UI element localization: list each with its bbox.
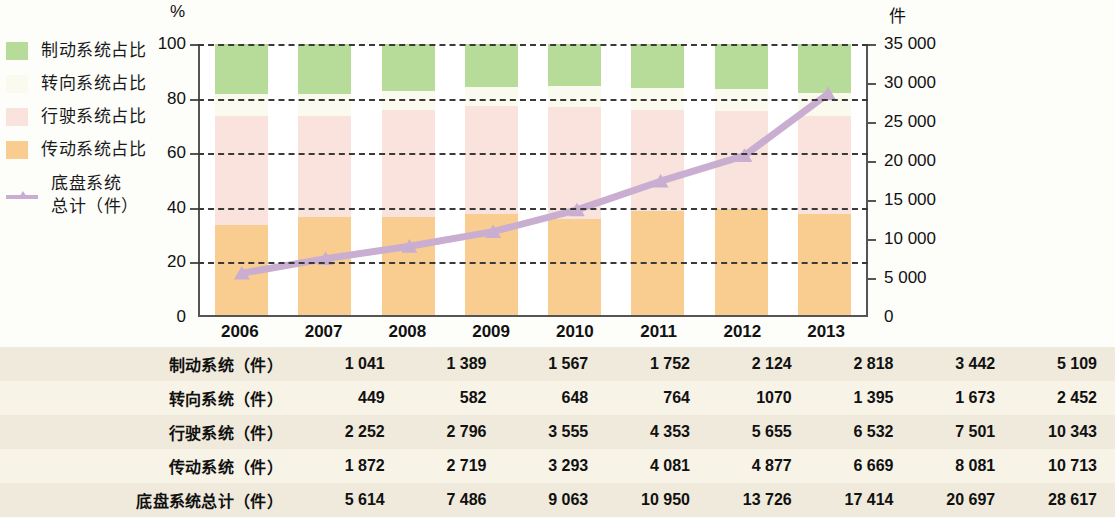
- table-cell: 3 293: [505, 449, 607, 483]
- table-cell: 9 063: [505, 483, 607, 517]
- table-cell: 1 567: [505, 347, 607, 381]
- left-axis-tick-label: 40: [128, 198, 186, 218]
- table-cell: 7 486: [403, 483, 505, 517]
- left-axis-tick-label: 20: [128, 252, 186, 272]
- bar-segment: [798, 116, 851, 214]
- table-cell: 648: [505, 381, 607, 415]
- stacked-bar[interactable]: [798, 44, 851, 315]
- x-axis-label: 2007: [282, 322, 366, 346]
- table-cell: 5 655: [708, 415, 810, 449]
- table-cell: 13 726: [708, 483, 810, 517]
- right-axis-tick-label: 10 000: [884, 229, 936, 249]
- bar-slot: [533, 44, 616, 315]
- table-cell: 1 872: [301, 449, 403, 483]
- table-row-label: 底盘系统总计（件）: [0, 483, 301, 517]
- left-axis-tick-label: 80: [128, 89, 186, 109]
- bar-segment: [382, 44, 435, 91]
- bar-slot: [783, 44, 866, 315]
- right-axis-tick-label: 25 000: [884, 112, 936, 132]
- x-axis-label: 2009: [449, 322, 533, 346]
- x-axis-label: 2013: [784, 322, 868, 346]
- left-axis-tick: [190, 208, 198, 210]
- table-row: 行驶系统（件）2 2522 7963 5554 3535 6556 5327 5…: [0, 415, 1115, 449]
- table-cell: 2 124: [708, 347, 810, 381]
- table-cell: 5 614: [301, 483, 403, 517]
- stacked-bar[interactable]: [382, 44, 435, 315]
- right-axis-tick-label: 30 000: [884, 73, 936, 93]
- stacked-bar[interactable]: [298, 44, 351, 315]
- table-row: 传动系统（件）1 8722 7193 2934 0814 8776 6698 0…: [0, 449, 1115, 483]
- stacked-bar[interactable]: [715, 44, 768, 315]
- legend-item-running[interactable]: 行驶系统占比: [6, 106, 191, 128]
- bar-segment: [465, 106, 518, 214]
- bar-segment: [631, 44, 684, 88]
- x-axis-label: 2006: [198, 322, 282, 346]
- left-axis-tick-label: 60: [128, 143, 186, 163]
- table-cell: 2 452: [1013, 381, 1115, 415]
- bar-segment: [465, 44, 518, 87]
- right-axis-tick-label: 15 000: [884, 190, 936, 210]
- bar-segment: [298, 94, 351, 115]
- right-axis-tick-label: 0: [884, 307, 893, 327]
- stacked-bars: [200, 44, 866, 315]
- x-axis-year-labels: 20062007200820092010201120122013: [198, 322, 868, 346]
- bar-segment: [465, 87, 518, 106]
- bar-slot: [700, 44, 783, 315]
- left-axis-tick-label: 100: [128, 34, 186, 54]
- right-axis-tick: [868, 278, 876, 280]
- stacked-bar[interactable]: [215, 44, 268, 315]
- bar-segment: [382, 217, 435, 315]
- legend-swatch-running: [6, 108, 28, 126]
- table-cell: 4 877: [708, 449, 810, 483]
- bar-segment: [798, 44, 851, 93]
- table-cell: 10 713: [1013, 449, 1115, 483]
- bar-segment: [298, 116, 351, 217]
- bar-segment: [548, 44, 601, 86]
- bar-segment: [631, 110, 684, 212]
- stacked-bar[interactable]: [631, 44, 684, 315]
- table-row: 转向系统（件）44958264876410701 3951 6732 452: [0, 381, 1115, 415]
- table-row-label: 行驶系统（件）: [0, 415, 301, 449]
- table-row-label: 转向系统（件）: [0, 381, 301, 415]
- table-row: 底盘系统总计（件）5 6147 4869 06310 95013 72617 4…: [0, 483, 1115, 517]
- right-axis-tick: [868, 239, 876, 241]
- table-cell: 582: [403, 381, 505, 415]
- left-axis-tick-label: 0: [128, 307, 186, 327]
- table-cell: 20 697: [912, 483, 1014, 517]
- table-cell: 10 950: [606, 483, 708, 517]
- bar-segment: [465, 214, 518, 315]
- bar-segment: [215, 225, 268, 315]
- table-cell: 2 719: [403, 449, 505, 483]
- table-cell: 1 041: [301, 347, 403, 381]
- table-cell: 449: [301, 381, 403, 415]
- left-axis-tick: [190, 99, 198, 101]
- left-axis-unit: %: [170, 2, 185, 22]
- bar-segment: [382, 91, 435, 110]
- right-axis-unit: 件: [889, 2, 906, 27]
- chart-region: % 件 制动系统占比 转向系统占比 行驶系统占比 传动系统占比 底盘系统 总计（…: [0, 0, 953, 340]
- legend-swatch-steering: [6, 75, 28, 93]
- gridline: [198, 208, 868, 210]
- table-cell: 2 796: [403, 415, 505, 449]
- table-cell: 4 353: [606, 415, 708, 449]
- bar-segment: [215, 44, 268, 94]
- table-cell: 2 818: [810, 347, 912, 381]
- bar-segment: [548, 107, 601, 219]
- right-axis-tick: [868, 44, 876, 46]
- table-cell: 3 555: [505, 415, 607, 449]
- table-cell: 7 501: [912, 415, 1014, 449]
- stacked-bar[interactable]: [548, 44, 601, 315]
- bar-slot: [616, 44, 699, 315]
- legend-swatch-transmission: [6, 141, 28, 159]
- table-cell: 28 617: [1013, 483, 1115, 517]
- table-row-label: 制动系统（件）: [0, 347, 301, 381]
- bar-slot: [283, 44, 366, 315]
- stacked-bar[interactable]: [465, 44, 518, 315]
- gridline: [198, 153, 868, 155]
- table-cell: 1 395: [810, 381, 912, 415]
- right-axis-tick-label: 20 000: [884, 151, 936, 171]
- right-axis-tick-label: 35 000: [884, 34, 936, 54]
- bar-segment: [548, 219, 601, 315]
- right-axis-tick: [868, 122, 876, 124]
- x-axis-label: 2012: [701, 322, 785, 346]
